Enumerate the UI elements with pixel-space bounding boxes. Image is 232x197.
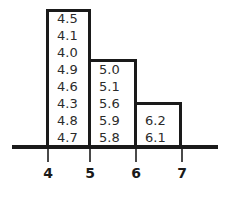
- data-value: 4.0: [57, 44, 78, 61]
- x-axis-label-4: 4: [36, 165, 60, 181]
- data-value: 5.6: [99, 95, 120, 112]
- data-value: 4.6: [57, 78, 78, 95]
- data-value: 4.7: [57, 129, 78, 146]
- bar-value-stack-bin-4: 4.5 4.1 4.0 4.9 4.6 4.3 4.8 4.7: [49, 10, 88, 146]
- stem-histogram-chart: 4.5 4.1 4.0 4.9 4.6 4.3 4.8 4.7 5.0 5.1 …: [0, 0, 232, 197]
- histogram-bar-bin-4: 4.5 4.1 4.0 4.9 4.6 4.3 4.8 4.7: [46, 9, 91, 148]
- bar-value-stack-bin-6: 6.2 6.1: [137, 112, 179, 146]
- data-value: 5.8: [99, 129, 120, 146]
- x-axis-tick-5: [89, 149, 91, 162]
- data-value: 4.9: [57, 61, 78, 78]
- x-axis-tick-4: [47, 149, 49, 162]
- data-value: 4.5: [57, 10, 78, 27]
- data-value: 4.8: [57, 112, 78, 129]
- histogram-bar-bin-5: 5.0 5.1 5.6 5.9 5.8: [88, 59, 137, 148]
- x-axis-tick-6: [135, 149, 137, 162]
- bar-value-stack-bin-5: 5.0 5.1 5.6 5.9 5.8: [91, 61, 134, 146]
- data-value: 5.1: [99, 78, 120, 95]
- x-axis-label-6: 6: [124, 165, 148, 181]
- data-value: 5.9: [99, 112, 120, 129]
- x-axis-line: [12, 145, 218, 149]
- data-value: 4.3: [57, 95, 78, 112]
- data-value: 4.1: [57, 27, 78, 44]
- data-value: 6.2: [145, 112, 166, 129]
- data-value: 5.0: [99, 61, 120, 78]
- data-value: 6.1: [145, 129, 166, 146]
- x-axis-tick-7: [181, 149, 183, 162]
- histogram-bar-bin-6: 6.2 6.1: [134, 102, 182, 148]
- x-axis-label-5: 5: [78, 165, 102, 181]
- x-axis-label-7: 7: [170, 165, 194, 181]
